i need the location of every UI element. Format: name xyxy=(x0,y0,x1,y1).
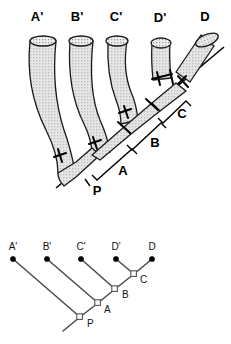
bracket-label-a: A xyxy=(118,163,128,178)
clad-node-label-p: P xyxy=(87,318,94,329)
clad-node-label-c: C xyxy=(140,274,147,285)
clad-node-label-a: A xyxy=(104,304,111,315)
figure-svg: A' B' C' D' D A B C P A' B' xyxy=(0,0,231,344)
clad-tip-dot-d-prime xyxy=(113,256,118,261)
tube-c-prime-rim xyxy=(106,36,128,46)
bracket-label-p: P xyxy=(93,183,102,198)
clad-tip-dot-b-prime xyxy=(44,256,49,261)
clad-tip-dot-a-prime xyxy=(10,256,15,261)
clad-tip-label-c-prime: C' xyxy=(76,241,85,252)
clad-node-label-b: B xyxy=(122,289,129,300)
tip-label-a-prime: A' xyxy=(31,9,43,24)
clad-tip-label-a-prime: A' xyxy=(9,241,18,252)
tip-label-d: D xyxy=(200,9,209,24)
clad-node-a xyxy=(95,300,101,306)
figure-root: A' B' C' D' D A B C P A' B' xyxy=(0,0,231,344)
tube-a-prime-rim xyxy=(30,36,56,46)
clad-tip-label-d-prime: D' xyxy=(111,241,120,252)
clad-tip-dot-d xyxy=(149,256,154,261)
tip-label-d-prime: D' xyxy=(154,10,166,25)
clad-tip-dot-c-prime xyxy=(78,256,83,261)
clad-tip-label-b-prime: B' xyxy=(43,241,52,252)
clad-node-c xyxy=(131,271,137,277)
clad-node-p xyxy=(77,314,83,320)
bracket-label-b: B xyxy=(150,135,159,150)
tube-d-prime xyxy=(151,38,173,85)
tip-label-b-prime: B' xyxy=(71,9,83,24)
clad-tip-label-d: D xyxy=(148,241,155,252)
bracket-label-c: C xyxy=(177,106,187,121)
tube-d-prime-rim xyxy=(151,38,171,48)
tube-b-prime-rim xyxy=(69,36,93,46)
clad-node-b xyxy=(112,286,118,292)
tip-label-c-prime: C' xyxy=(110,9,122,24)
